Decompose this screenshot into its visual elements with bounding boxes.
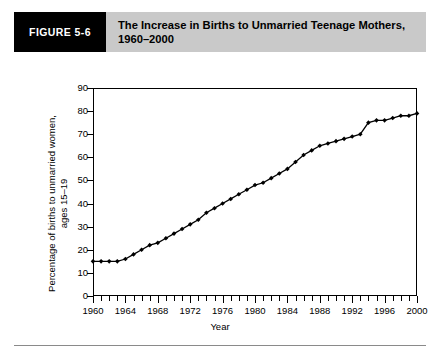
series-line [93,113,417,261]
data-point-marker [407,113,412,118]
data-point-marker [399,113,404,118]
line-series-births-to-unmarried-teens [93,88,417,296]
x-axis-minor-tick-mark [117,296,118,301]
data-point-marker [342,137,347,142]
x-axis-minor-tick-mark [134,296,135,301]
x-axis-minor-tick-mark [312,296,313,301]
figure-title: The Increase in Births to Unmarried Teen… [106,12,426,52]
x-axis-major-tick-mark [385,296,386,303]
y-axis-tick-label: 10 [66,268,88,278]
figure-header-banner: FIGURE 5-6 The Increase in Births to Unm… [14,12,426,52]
x-axis-major-tick-mark [417,296,418,303]
x-axis-minor-tick-mark [344,296,345,301]
x-axis-title: Year [0,321,440,332]
x-axis-minor-tick-mark [279,296,280,301]
y-axis-tick-label: 20 [66,245,88,255]
x-axis-minor-tick-mark [328,296,329,301]
data-point-marker [107,259,112,264]
x-axis-minor-tick-mark [239,296,240,301]
x-axis-minor-tick-mark [409,296,410,301]
x-axis-tick-label: 2000 [397,305,437,316]
x-axis-major-tick-mark [352,296,353,303]
x-axis-major-tick-mark [223,296,224,303]
data-point-marker [99,259,104,264]
chart-container: Percentage of births to unmarried women,… [0,62,440,330]
x-axis-major-tick-mark [255,296,256,303]
x-axis-minor-tick-mark [263,296,264,301]
y-axis-tick-label: 80 [66,106,88,116]
y-axis-tick-label: 90 [66,83,88,93]
data-point-marker [415,111,420,116]
y-axis-tick-label: 30 [66,222,88,232]
x-axis-minor-tick-mark [304,296,305,301]
data-point-marker [350,134,355,139]
figure-number-tag: FIGURE 5-6 [14,12,106,52]
x-axis-major-tick-mark [190,296,191,303]
x-axis-minor-tick-mark [150,296,151,301]
x-axis-minor-tick-mark [182,296,183,301]
y-axis-title-line-1: Percentage of births to unmarried women, [46,94,58,314]
data-point-marker [326,141,331,146]
data-point-marker [390,116,395,121]
x-axis-minor-tick-mark [247,296,248,301]
data-point-marker [115,259,120,264]
x-axis-minor-tick-mark [296,296,297,301]
x-axis-minor-tick-mark [271,296,272,301]
x-axis-major-tick-mark [287,296,288,303]
x-axis-minor-tick-mark [174,296,175,301]
x-axis-minor-tick-mark [166,296,167,301]
x-axis-minor-tick-mark [377,296,378,301]
x-axis-minor-tick-mark [198,296,199,301]
x-axis-minor-tick-mark [368,296,369,301]
x-axis-minor-tick-mark [142,296,143,301]
x-axis-minor-tick-mark [206,296,207,301]
y-axis-tick-label: 60 [66,153,88,163]
figure-title-line-2: 1960–2000 [118,32,418,46]
x-axis-minor-tick-mark [393,296,394,301]
y-axis-tick-label: 40 [66,199,88,209]
data-point-marker [334,139,339,144]
x-axis-minor-tick-mark [101,296,102,301]
y-axis-tick-label: 50 [66,176,88,186]
x-axis-minor-tick-mark [215,296,216,301]
x-axis-major-tick-mark [93,296,94,303]
x-axis-minor-tick-mark [109,296,110,301]
y-axis-tick-label: 70 [66,129,88,139]
x-axis-major-tick-mark [320,296,321,303]
data-point-marker [374,118,379,123]
data-point-marker [382,118,387,123]
figure-title-line-1: The Increase in Births to Unmarried Teen… [118,18,418,32]
x-axis-minor-tick-mark [336,296,337,301]
data-point-marker [91,259,96,264]
x-axis-major-tick-mark [125,296,126,303]
x-axis-minor-tick-mark [231,296,232,301]
footer-divider [14,345,426,346]
x-axis-minor-tick-mark [360,296,361,301]
x-axis-major-tick-mark [158,296,159,303]
y-axis-tick-label: 0 [66,291,88,301]
x-axis-minor-tick-mark [401,296,402,301]
